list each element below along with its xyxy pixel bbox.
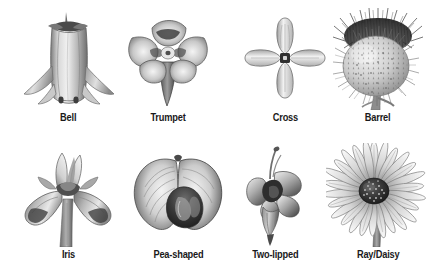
flower-label-two-lipped: Two-lipped	[252, 248, 298, 260]
cross-flower-illustration	[233, 6, 337, 110]
flower-cell-ray-daisy: Ray/Daisy	[324, 143, 431, 260]
flower-label-cross: Cross	[272, 111, 297, 123]
flower-cell-barrel: Barrel	[324, 6, 431, 123]
trumpet-flower-illustration	[116, 6, 220, 110]
flower-label-barrel: Barrel	[365, 111, 391, 123]
flower-cell-trumpet: Trumpet	[114, 6, 222, 123]
bell-flower-illustration	[16, 6, 120, 110]
flower-label-trumpet: Trumpet	[150, 111, 185, 123]
flower-shapes-figure: Bell	[0, 0, 431, 270]
flower-label-iris: Iris	[61, 248, 74, 260]
pea-shaped-flower-illustration	[126, 143, 230, 247]
ray-daisy-flower-illustration	[326, 143, 430, 247]
flower-label-pea-shaped: Pea-shaped	[153, 248, 203, 260]
two-lipped-flower-illustration	[223, 143, 327, 247]
flower-cell-iris: Iris	[14, 143, 122, 260]
flower-cell-cross: Cross	[231, 6, 339, 123]
barrel-flower-illustration	[326, 6, 430, 110]
flower-label-ray-daisy: Ray/Daisy	[357, 248, 400, 260]
flower-cell-two-lipped: Two-lipped	[221, 143, 329, 260]
flower-cell-bell: Bell	[14, 6, 122, 123]
flower-label-bell: Bell	[60, 111, 76, 123]
iris-flower-illustration	[16, 143, 120, 247]
flower-cell-pea-shaped: Pea-shaped	[124, 143, 232, 260]
